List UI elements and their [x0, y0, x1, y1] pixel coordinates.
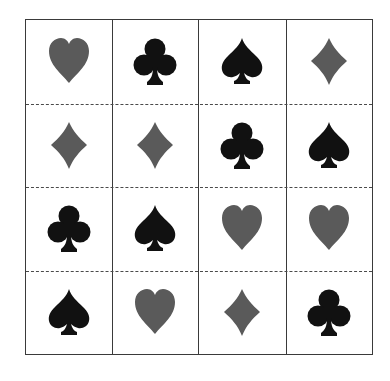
card-cell-diamond	[198, 271, 286, 354]
card-cell-heart	[26, 20, 112, 104]
card-cell-heart	[112, 271, 198, 354]
card-cell-heart	[286, 187, 372, 271]
club-icon	[133, 37, 177, 87]
card-cell-spade	[198, 20, 286, 104]
spade-icon	[307, 121, 351, 171]
card-cell-diamond	[112, 104, 198, 187]
heart-icon	[220, 204, 264, 254]
card-cell-club	[112, 20, 198, 104]
card-cell-spade	[286, 104, 372, 187]
heart-icon	[133, 288, 177, 338]
card-cell-club	[198, 104, 286, 187]
spade-icon	[47, 288, 91, 338]
card-cell-spade	[112, 187, 198, 271]
diamond-icon	[47, 121, 91, 171]
heart-icon	[47, 37, 91, 87]
club-icon	[47, 204, 91, 254]
club-icon	[307, 288, 351, 338]
card-cell-heart	[198, 187, 286, 271]
card-cell-club	[26, 187, 112, 271]
spade-icon	[220, 37, 264, 87]
diamond-icon	[307, 37, 351, 87]
spade-icon	[133, 204, 177, 254]
card-suit-grid	[25, 19, 373, 355]
diamond-icon	[133, 121, 177, 171]
card-cell-diamond	[26, 104, 112, 187]
heart-icon	[307, 204, 351, 254]
card-cell-diamond	[286, 20, 372, 104]
card-cell-club	[286, 271, 372, 354]
card-cell-spade	[26, 271, 112, 354]
club-icon	[220, 121, 264, 171]
diamond-icon	[220, 288, 264, 338]
